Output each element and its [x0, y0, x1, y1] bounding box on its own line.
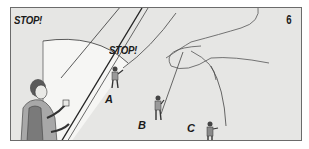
climber-label-b: B — [138, 120, 146, 131]
stop-callout-near-climber-a: STOP! — [109, 45, 137, 56]
stop-callout-top-left: STOP! — [14, 15, 42, 26]
climbing-scene-illustration — [11, 8, 302, 141]
climber-label-a: A — [105, 94, 113, 105]
climber-b-figure — [155, 96, 164, 121]
panel-number: 6 — [287, 13, 292, 27]
illustration-panel: STOP! STOP! 6 A B C — [10, 7, 302, 141]
climber-c-figure — [207, 122, 218, 142]
climber-label-c: C — [187, 123, 195, 134]
